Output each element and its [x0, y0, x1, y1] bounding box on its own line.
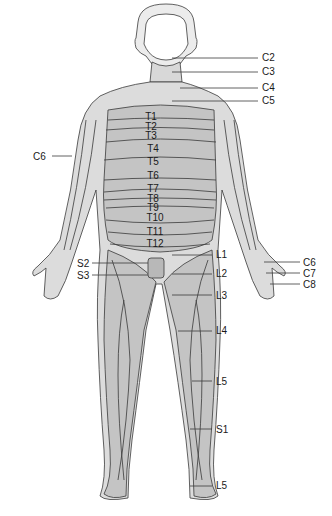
label-l1: L1 [216, 250, 227, 260]
label-t5: T5 [147, 157, 159, 167]
label-t4: T4 [147, 144, 159, 154]
label-t12: T12 [146, 239, 163, 249]
label-t3: T3 [145, 131, 157, 141]
label-l4: L4 [216, 326, 227, 336]
label-c4: C4 [262, 83, 275, 93]
label-l5-upper: L5 [216, 377, 227, 387]
label-c6-right: C6 [303, 258, 316, 268]
label-t10: T10 [146, 213, 163, 223]
label-c6-left: C6 [33, 152, 46, 162]
dermatome-body-figure [0, 0, 332, 516]
label-s1: S1 [216, 425, 228, 435]
label-t11: T11 [147, 227, 164, 237]
face [144, 14, 188, 60]
label-t6: T6 [147, 171, 159, 181]
label-c3: C3 [262, 67, 275, 77]
genital-region [148, 258, 164, 278]
label-c7: C7 [303, 269, 316, 279]
label-l3: L3 [216, 291, 227, 301]
label-c2: C2 [262, 53, 275, 63]
label-c5: C5 [262, 96, 275, 106]
label-c8: C8 [303, 280, 316, 290]
label-l2: L2 [216, 269, 227, 279]
label-s3: S3 [77, 271, 89, 281]
label-l5-lower: L5 [216, 481, 227, 491]
label-s2: S2 [77, 259, 89, 269]
